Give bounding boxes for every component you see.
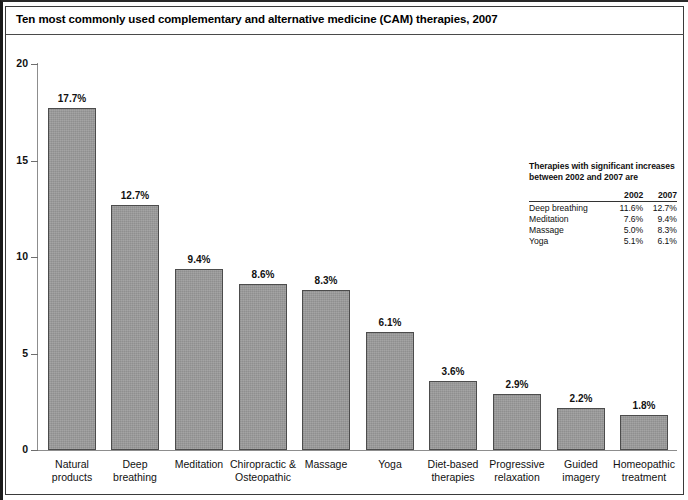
bar-value-label: 12.7% bbox=[97, 190, 173, 201]
note-cell-therapy: Yoga bbox=[529, 235, 610, 246]
note-cell-2007: 12.7% bbox=[643, 202, 677, 214]
bar[interactable] bbox=[557, 408, 605, 450]
y-tick-mark bbox=[31, 64, 38, 65]
note-table-row: Massage5.0%8.3% bbox=[529, 224, 677, 235]
y-tick-label: 10 bbox=[0, 250, 28, 262]
note-cell-therapy: Meditation bbox=[529, 213, 610, 224]
title-divider bbox=[6, 34, 684, 35]
bar-value-label: 8.3% bbox=[288, 275, 364, 286]
bar[interactable] bbox=[620, 415, 668, 450]
bar-value-label: 2.9% bbox=[479, 379, 555, 390]
y-tick-mark bbox=[31, 161, 38, 162]
y-tick-mark bbox=[31, 450, 38, 451]
y-tick-label: 0 bbox=[0, 443, 28, 455]
note-cell-2002: 5.0% bbox=[610, 224, 643, 235]
bar[interactable] bbox=[366, 332, 414, 450]
bar-value-label: 1.8% bbox=[606, 400, 682, 411]
note-table-row: Yoga5.1%6.1% bbox=[529, 235, 677, 246]
note-table: 2002 2007 Deep breathing11.6%12.7%Medita… bbox=[529, 190, 677, 246]
y-tick-label: 20 bbox=[0, 57, 28, 69]
note-cell-2002: 5.1% bbox=[610, 235, 643, 246]
note-table-header-row: 2002 2007 bbox=[529, 190, 677, 202]
note-cell-2007: 6.1% bbox=[643, 235, 677, 246]
note-cell-2007: 9.4% bbox=[643, 213, 677, 224]
y-tick-label: 15 bbox=[0, 154, 28, 166]
note-heading-line-2: between 2002 and 2007 are bbox=[529, 172, 677, 183]
note-col-2002: 2002 bbox=[610, 190, 643, 202]
figure-title: Ten most commonly used complementary and… bbox=[16, 13, 498, 25]
note-cell-therapy: Deep breathing bbox=[529, 202, 610, 214]
note-heading-line-1: Therapies with significant increases bbox=[529, 161, 677, 172]
bar[interactable] bbox=[429, 381, 477, 450]
note-col-therapy bbox=[529, 190, 610, 202]
bar[interactable] bbox=[493, 394, 541, 450]
bar[interactable] bbox=[48, 108, 96, 450]
x-category-label-line: Osteopathic bbox=[224, 471, 302, 484]
bar[interactable] bbox=[175, 269, 223, 450]
x-category-label: Homeopathictreatment bbox=[605, 458, 683, 483]
x-category-label-line: breathing bbox=[96, 471, 174, 484]
x-category-label-line: Homeopathic bbox=[605, 458, 683, 471]
bar-value-label: 3.6% bbox=[415, 366, 491, 377]
note-cell-2002: 7.6% bbox=[610, 213, 643, 224]
note-table-row: Meditation7.6%9.4% bbox=[529, 213, 677, 224]
note-cell-therapy: Massage bbox=[529, 224, 610, 235]
significant-increases-note: Therapies with significant increases bet… bbox=[529, 161, 677, 246]
y-tick-mark bbox=[31, 354, 38, 355]
bar[interactable] bbox=[111, 205, 159, 450]
x-category-label-line: treatment bbox=[605, 471, 683, 484]
note-cell-2007: 8.3% bbox=[643, 224, 677, 235]
bar-value-label: 9.4% bbox=[161, 254, 237, 265]
bar[interactable] bbox=[239, 284, 287, 450]
y-tick-label: 5 bbox=[0, 347, 28, 359]
note-cell-2002: 11.6% bbox=[610, 202, 643, 214]
y-tick-mark bbox=[31, 257, 38, 258]
bar-value-label: 17.7% bbox=[34, 93, 110, 104]
bar[interactable] bbox=[302, 290, 350, 450]
note-col-2007: 2007 bbox=[643, 190, 677, 202]
note-table-row: Deep breathing11.6%12.7% bbox=[529, 202, 677, 214]
x-axis-line bbox=[37, 450, 677, 451]
figure-container: Ten most commonly used complementary and… bbox=[0, 0, 688, 500]
bar-value-label: 6.1% bbox=[352, 317, 428, 328]
